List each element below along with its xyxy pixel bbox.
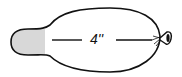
- balloon-tip-shaded: [11, 29, 45, 55]
- measurement-label: 4'': [88, 31, 105, 47]
- balloon-knot-icon: [160, 32, 171, 44]
